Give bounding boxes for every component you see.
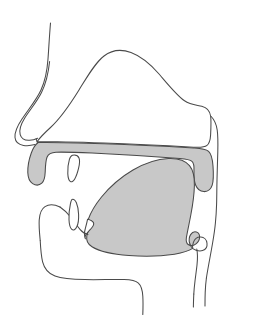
head-profile-group xyxy=(15,23,51,150)
nasal-cavity-shape xyxy=(37,51,211,148)
lower-lip-outline xyxy=(39,205,60,241)
neck-back-line xyxy=(205,278,206,306)
lower-incisor-tooth xyxy=(69,199,79,230)
vocal-tract-figure xyxy=(0,0,256,332)
pharyngeal-wall-inner xyxy=(194,249,198,294)
tongue-shape xyxy=(87,158,200,256)
upper-incisor-tooth xyxy=(68,155,80,182)
vocal-tract-diagram xyxy=(0,0,256,332)
